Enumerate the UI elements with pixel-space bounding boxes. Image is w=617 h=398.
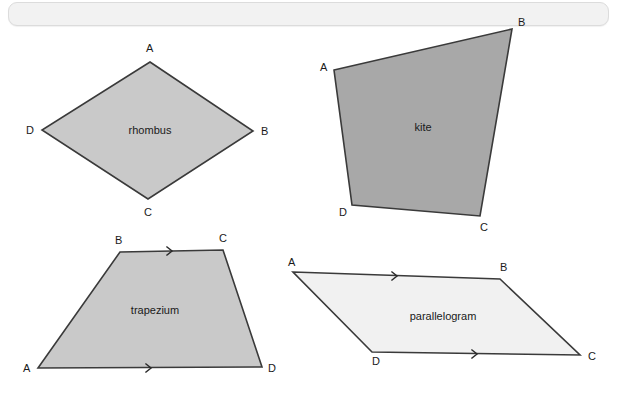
kite-vertex-c: C	[480, 221, 488, 233]
rhombus-vertex-c: C	[144, 206, 152, 218]
figure-trapezium[interactable]: trapezium B C D A	[23, 232, 276, 374]
diagram-screen: rhombus A B C D kite A B C D trapezium B…	[0, 0, 617, 398]
kite-vertex-d: D	[339, 206, 347, 218]
trapezium-vertex-c: C	[219, 232, 227, 244]
parallelogram-vertex-a: A	[288, 256, 296, 268]
rhombus-vertex-a: A	[146, 42, 154, 54]
parallelogram-name-label: parallelogram	[410, 310, 477, 322]
kite-vertex-b: B	[518, 16, 525, 28]
parallelogram-vertex-d: D	[372, 355, 380, 367]
rhombus-vertex-d: D	[26, 124, 34, 136]
parallelogram-vertex-c: C	[588, 350, 596, 362]
figure-rhombus[interactable]: rhombus A B C D	[26, 42, 268, 218]
rhombus-vertex-b: B	[261, 125, 268, 137]
quadrilaterals-figure-canvas: rhombus A B C D kite A B C D trapezium B…	[0, 0, 617, 398]
trapezium-name-label: trapezium	[131, 304, 179, 316]
trapezium-vertex-b: B	[115, 234, 122, 246]
figure-parallelogram[interactable]: parallelogram A B C D	[288, 256, 596, 367]
rhombus-name-label: rhombus	[129, 124, 172, 136]
trapezium-vertex-d: D	[268, 362, 276, 374]
kite-vertex-a: A	[320, 61, 328, 73]
kite-name-label: kite	[414, 121, 431, 133]
trapezium-vertex-a: A	[23, 362, 31, 374]
figure-kite[interactable]: kite A B C D	[320, 16, 525, 233]
parallelogram-vertex-b: B	[500, 261, 507, 273]
